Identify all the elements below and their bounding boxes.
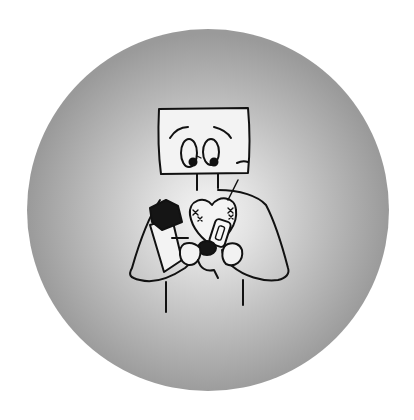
- right-pupil: [211, 159, 218, 166]
- left-pupil: [190, 159, 197, 166]
- left-fist: [180, 243, 200, 265]
- illustration: [0, 0, 414, 420]
- head-monitor: [158, 108, 249, 174]
- right-fist: [222, 243, 242, 265]
